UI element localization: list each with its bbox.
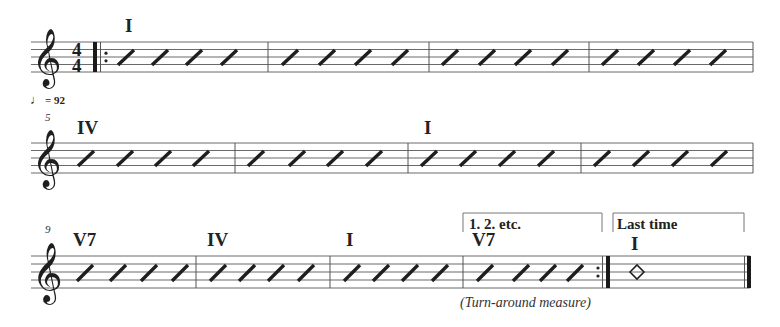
treble-clef-icon: 𝄞 (32, 242, 63, 305)
ending-label: 1. 2. etc. (469, 216, 521, 232)
staff-row-2: 5 𝄞 IV I (31, 111, 753, 190)
staff-row-1: 𝄞 4 4 ♩= 92 I (30, 15, 753, 107)
sheet-music-score: 𝄞 4 4 ♩= 92 I (0, 0, 780, 327)
chord-symbol: I (631, 233, 638, 254)
last-ending-bracket: Last time (613, 213, 744, 232)
chord-symbol: V7 (73, 229, 97, 250)
turnaround-annotation: (Turn-around measure) (460, 295, 591, 311)
chord-symbol: I (424, 117, 431, 138)
tempo-marking: ♩= 92 (30, 92, 66, 107)
repeat-start-thick-bar (93, 42, 97, 72)
chord-symbol: I (125, 15, 132, 36)
treble-clef-icon: 𝄞 (32, 28, 62, 89)
final-thick-bar (747, 256, 751, 288)
measure-9 (77, 265, 188, 281)
repeat-dot (596, 266, 599, 269)
repeat-dot (104, 59, 107, 62)
repeat-end-thick-bar (606, 256, 610, 288)
chord-symbol: I (346, 229, 353, 250)
first-ending-bracket: 1. 2. etc. (463, 213, 602, 232)
staff-row-3: 9 𝄞 V7 IV I V7 I 1. 2. etc. Last time (31, 213, 751, 311)
chord-symbol: IV (77, 117, 98, 138)
repeat-dot (596, 274, 599, 277)
staff-lines (31, 256, 750, 288)
treble-clef-icon: 𝄞 (32, 129, 62, 190)
chord-symbol: IV (207, 229, 228, 250)
staff-lines (31, 143, 753, 173)
time-signature-bottom: 4 (72, 55, 82, 76)
measure-12-turnaround (477, 265, 583, 281)
measure-number: 9 (45, 223, 51, 235)
quarter-note-icon: ♩ (30, 92, 43, 107)
ending-label: Last time (617, 216, 678, 232)
measure-number: 5 (45, 111, 51, 123)
repeat-dot (104, 52, 107, 55)
chord-symbol: V7 (472, 229, 496, 250)
measure-10 (210, 265, 314, 281)
measure-11 (344, 265, 448, 281)
